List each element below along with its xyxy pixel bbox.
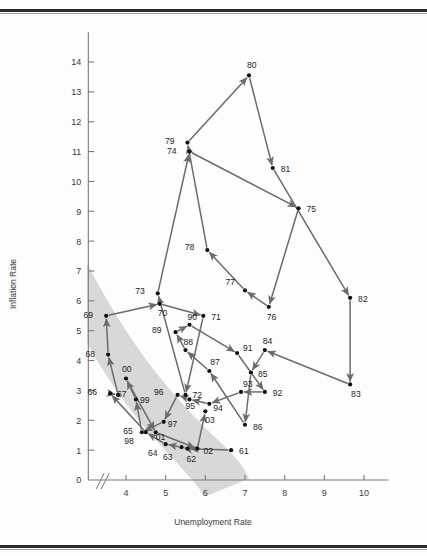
- data-point: [205, 248, 209, 252]
- axes-layer: 4567891001234567891011121314: [71, 32, 388, 498]
- data-point: [162, 420, 166, 424]
- data-point: [263, 390, 267, 394]
- y-tick-label: 2: [76, 416, 81, 426]
- point-label-89: 89: [152, 325, 162, 335]
- y-tick-label: 11: [72, 147, 81, 157]
- point-label-78: 78: [185, 242, 195, 252]
- year-transition-arrow: [253, 352, 264, 370]
- point-label-94: 94: [213, 403, 223, 413]
- y-tick-label: 8: [76, 237, 81, 247]
- data-point: [187, 149, 191, 153]
- point-label-73: 73: [135, 286, 145, 296]
- y-tick-label: 7: [76, 266, 81, 276]
- point-label-82: 82: [358, 294, 368, 304]
- point-label-77: 77: [225, 277, 235, 287]
- year-transition-arrow: [268, 351, 348, 383]
- data-point: [267, 305, 271, 309]
- data-point: [108, 391, 112, 395]
- point-label-63: 63: [163, 452, 173, 462]
- top-border-rule: [0, 9, 427, 12]
- data-point: [229, 448, 233, 452]
- point-label-68: 68: [86, 349, 96, 359]
- x-tick-label: 8: [282, 488, 287, 498]
- data-point: [156, 291, 160, 295]
- point-label-99: 99: [140, 395, 150, 405]
- data-point: [106, 353, 110, 357]
- data-point: [183, 393, 187, 397]
- data-point: [183, 348, 187, 352]
- data-point: [179, 445, 183, 449]
- point-label-80: 80: [247, 60, 257, 70]
- year-transition-arrow: [158, 154, 189, 290]
- x-tick-label: 7: [242, 488, 247, 498]
- x-axis-title: Unemployment Rate: [174, 517, 252, 527]
- data-point: [185, 447, 189, 451]
- year-transition-arrow: [109, 304, 157, 315]
- point-label-90: 90: [187, 312, 197, 322]
- year-transition-arrow: [211, 374, 244, 423]
- point-label-88: 88: [184, 337, 194, 347]
- point-label-65: 65: [123, 426, 133, 436]
- y-tick-label: 9: [76, 207, 81, 217]
- data-point: [158, 302, 162, 306]
- point-label-97: 97: [168, 419, 178, 429]
- data-point: [249, 370, 253, 374]
- x-tick-label: 5: [163, 488, 168, 498]
- data-point: [239, 390, 243, 394]
- data-point: [243, 288, 247, 292]
- y-tick-label: 6: [76, 296, 81, 306]
- year-transition-arrow: [188, 146, 207, 248]
- point-label-85: 85: [258, 369, 268, 379]
- data-point: [185, 141, 189, 145]
- point-label-03: 03: [205, 415, 215, 425]
- data-point: [348, 382, 352, 386]
- point-label-91: 91: [243, 343, 253, 353]
- year-transition-arrow: [189, 78, 247, 141]
- data-point: [263, 348, 267, 352]
- year-transition-arrow: [274, 170, 348, 295]
- data-point: [348, 296, 352, 300]
- point-label-61: 61: [239, 446, 249, 456]
- y-tick-label: 10: [71, 177, 81, 187]
- scatter-plot-svg: 4567891001234567891011121314 61626364656…: [0, 14, 427, 544]
- year-transition-arrow: [178, 326, 187, 331]
- y-axis-title: Inflation Rate: [8, 259, 18, 309]
- data-point: [173, 330, 177, 334]
- year-transition-arrow: [188, 352, 208, 369]
- x-tick-label: 9: [322, 488, 327, 498]
- data-point: [243, 423, 247, 427]
- point-label-83: 83: [351, 389, 361, 399]
- y-tick-label: 14: [71, 57, 81, 67]
- year-transition-arrow: [247, 292, 266, 305]
- data-point: [207, 369, 211, 373]
- data-point: [187, 323, 191, 327]
- figure-page: 4567891001234567891011121314 61626364656…: [0, 0, 427, 556]
- point-label-02: 02: [203, 446, 213, 456]
- bottom-border-rule-secondary: [0, 549, 427, 550]
- point-label-70: 70: [158, 308, 168, 318]
- year-transition-arrow: [250, 78, 272, 165]
- x-tick-label: 4: [123, 488, 128, 498]
- data-point: [134, 397, 138, 401]
- point-label-96: 96: [154, 387, 164, 397]
- data-point: [124, 376, 128, 380]
- data-point: [207, 402, 211, 406]
- point-label-98: 98: [124, 436, 134, 446]
- point-label-79: 79: [165, 136, 175, 146]
- data-point: [296, 206, 300, 210]
- y-tick-label: 3: [76, 386, 81, 396]
- point-label-93: 93: [243, 379, 253, 389]
- point-label-00: 00: [122, 364, 132, 374]
- point-label-66: 66: [88, 387, 98, 397]
- data-point: [201, 314, 205, 318]
- point-label-95: 95: [185, 401, 195, 411]
- point-label-75: 75: [307, 204, 317, 214]
- data-point: [195, 447, 199, 451]
- data-point: [164, 442, 168, 446]
- point-label-92: 92: [273, 388, 283, 398]
- point-label-86: 86: [253, 422, 263, 432]
- point-label-01: 01: [156, 432, 166, 442]
- data-point: [104, 314, 108, 318]
- y-tick-label: 5: [76, 326, 81, 336]
- point-label-64: 64: [148, 448, 158, 458]
